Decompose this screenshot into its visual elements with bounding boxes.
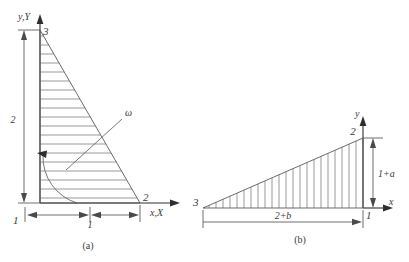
panel-b-horizontal-dimension: 2+b — [203, 210, 363, 228]
technical-figure: 3 2 1 y,Y x,X ω 2 — [0, 0, 409, 262]
panel-a-vertical-dimension: 2 — [11, 30, 41, 203]
panel-a-horizontal-dimension-label: 1 — [88, 219, 93, 230]
panel-a-y-axis-label: y,Y — [17, 11, 31, 22]
panel-b-caption: (b) — [294, 234, 306, 246]
panel-b-node-3-label: 3 — [192, 196, 199, 208]
panel-a-rotation-arc — [37, 151, 77, 204]
panel-b-y-axis-label: y — [354, 108, 360, 119]
panel-b-node-1-label: 1 — [366, 209, 372, 221]
panel-b-vertical-dimension-label: 1+a — [378, 168, 395, 179]
panel-a-node-1-label: 1 — [13, 214, 19, 226]
panel-b: 3 2 1 y x 1+a 2+b (b) — [192, 108, 395, 246]
panel-a-node-3-label: 3 — [42, 25, 49, 37]
panel-a-omega-leader — [66, 119, 122, 170]
panel-a: 3 2 1 y,Y x,X ω 2 — [11, 11, 181, 252]
panel-a-caption: (a) — [82, 240, 93, 252]
panel-b-hatch-region — [209, 130, 356, 212]
panel-b-horizontal-dimension-label: 2+b — [275, 210, 292, 221]
panel-a-vertical-dimension-label: 2 — [11, 114, 16, 125]
panel-a-horizontal-dimensions: 1 — [25, 205, 140, 230]
figure-container: 3 2 1 y,Y x,X ω 2 — [0, 0, 409, 262]
panel-b-x-axis-label: x — [388, 196, 394, 207]
panel-a-omega-label: ω — [125, 107, 132, 118]
panel-a-x-axis-label: x,X — [149, 207, 164, 218]
panel-b-triangle — [203, 138, 363, 208]
panel-a-node-2-label: 2 — [143, 191, 149, 203]
panel-b-node-2-label: 2 — [350, 125, 356, 137]
